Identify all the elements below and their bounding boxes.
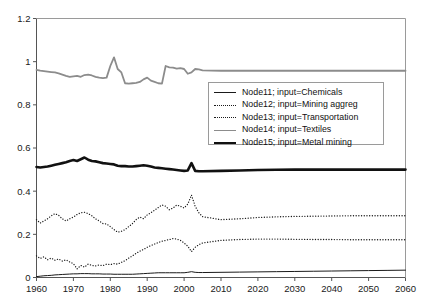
line-chart: 00.20.40.60.811.2 1960197019801990200020… — [0, 0, 422, 304]
x-tick-label: 2060 — [395, 283, 416, 294]
legend-item-label: Node14; input=Textiles — [242, 124, 331, 135]
y-tick-label: 0.2 — [17, 229, 30, 240]
x-axis-ticks: 1960197019801990200020102020203020402050… — [26, 278, 416, 294]
x-tick-label: 2000 — [174, 283, 195, 294]
x-tick-label: 1980 — [100, 283, 121, 294]
axis-frame — [37, 19, 406, 278]
series-line-node11 — [37, 270, 406, 276]
y-tick-label: 0 — [25, 272, 30, 283]
legend-line-swatch-icon — [213, 87, 237, 98]
y-tick-label: 0.6 — [17, 142, 30, 153]
y-tick-label: 0.8 — [17, 99, 30, 110]
plot-canvas: 00.20.40.60.811.2 1960197019801990200020… — [0, 0, 422, 304]
legend-item-node13[interactable]: Node13; input=Transportation — [213, 111, 379, 123]
x-tick-label: 1990 — [137, 283, 158, 294]
y-tick-label: 1.2 — [17, 13, 30, 24]
x-tick-label: 1960 — [26, 283, 47, 294]
legend-line-swatch-icon — [213, 99, 237, 110]
y-tick-label: 0.4 — [17, 186, 30, 197]
legend-item-label: Node15; input=Metal mining — [242, 137, 352, 148]
y-tick-label: 1 — [25, 56, 30, 67]
y-axis-ticks: 00.20.40.60.811.2 — [17, 13, 36, 283]
legend-item-label: Node11; input=Chemicals — [242, 87, 342, 98]
legend-item-node11[interactable]: Node11; input=Chemicals — [213, 86, 379, 98]
x-tick-label: 2030 — [284, 283, 305, 294]
legend-line-swatch-icon — [213, 137, 237, 148]
chart-legend: Node11; input=ChemicalsNode12; input=Min… — [208, 82, 384, 145]
legend-line-swatch-icon — [213, 124, 237, 135]
legend-item-node12[interactable]: Node12; input=Mining aggreg — [213, 99, 379, 111]
legend-item-label: Node13; input=Transportation — [242, 112, 358, 123]
series-line-node13 — [37, 195, 406, 232]
x-tick-label: 1970 — [63, 283, 84, 294]
x-tick-label: 2010 — [210, 283, 231, 294]
legend-item-label: Node12; input=Mining aggreg — [242, 99, 358, 110]
series-line-node14 — [37, 57, 406, 83]
x-tick-label: 2040 — [321, 283, 342, 294]
legend-item-node15[interactable]: Node15; input=Metal mining — [213, 136, 379, 148]
x-tick-label: 2050 — [358, 283, 379, 294]
series-line-node12 — [37, 239, 406, 269]
legend-line-swatch-icon — [213, 112, 237, 123]
x-tick-label: 2020 — [247, 283, 268, 294]
legend-item-node14[interactable]: Node14; input=Textiles — [213, 124, 379, 136]
series-line-node15 — [37, 158, 406, 172]
